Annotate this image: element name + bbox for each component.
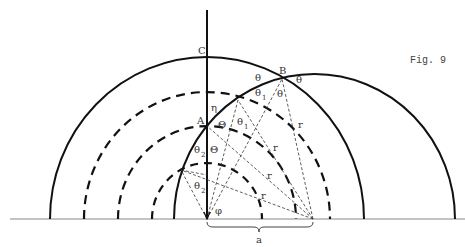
- label-theta2-upper: θ: [194, 144, 200, 155]
- label-B: B: [279, 65, 286, 76]
- label-a: a: [256, 234, 262, 245]
- label-theta2-upper-sub: 2: [201, 151, 205, 159]
- label-r-4: r: [261, 190, 266, 201]
- label-theta2-lower: θ: [194, 180, 200, 191]
- label-eta: η: [211, 102, 217, 113]
- label-r-3: r: [267, 170, 272, 181]
- label-theta2-lower-sub: 2: [201, 187, 205, 195]
- label-theta-top-right: θ: [296, 74, 302, 85]
- label-theta1-upper: θ: [255, 87, 261, 98]
- label-theta1-upper-sub: 1: [262, 94, 266, 102]
- label-Theta-A: Θ: [218, 119, 226, 130]
- label-phi: φ: [215, 205, 222, 216]
- brace-a: [207, 222, 313, 232]
- label-C: C: [198, 45, 206, 56]
- label-theta-top-left: θ: [255, 72, 261, 83]
- label-A: A: [196, 115, 205, 126]
- fig-9-diagram: C B A θ θ θ θ 1 η Θ θ 1 θ 2 Θ θ 2 φ r r …: [0, 0, 465, 247]
- label-Theta-low: Θ: [210, 144, 218, 155]
- label-r-1: r: [298, 119, 303, 130]
- figure-caption: Fig. 9: [410, 55, 446, 66]
- label-r-2: r: [273, 142, 278, 153]
- label-theta1-lower: θ: [237, 116, 243, 127]
- label-theta-B: θ: [277, 88, 283, 99]
- radius-lines: [181, 79, 313, 219]
- label-theta1-lower-sub: 1: [244, 123, 248, 131]
